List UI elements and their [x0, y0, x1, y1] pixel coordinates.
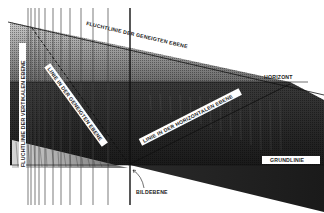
- vanishing-line-vertical-text: FLUCHTLINIE DER VERTIKALEN EBENE: [20, 60, 26, 167]
- label-ground-line: GRUNDLINIE: [262, 156, 320, 164]
- perspective-diagram: FLUCHTLINIE DER GENEIGTEN EBENE FLUCHTLI…: [0, 0, 324, 213]
- ground-line-text: GRUNDLINIE: [270, 157, 305, 163]
- picture-plane-label: BILDEBENE: [136, 189, 168, 195]
- label-vanishing-line-vertical: FLUCHTLINIE DER VERTIKALEN EBENE: [19, 43, 26, 169]
- horizon-label: HORIZONT: [264, 74, 293, 80]
- picture-plane-arrow: [133, 170, 144, 188]
- arrowhead-icon: [133, 170, 136, 173]
